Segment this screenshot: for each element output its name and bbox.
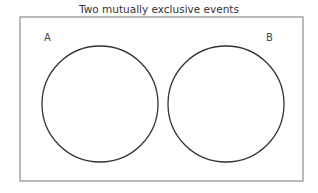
universe-frame	[20, 17, 303, 181]
set-a-circle	[42, 46, 158, 162]
venn-diagram: A B	[0, 0, 318, 193]
set-b-circle	[168, 46, 284, 162]
set-a-label: A	[44, 32, 51, 43]
set-b-label: B	[266, 32, 273, 43]
